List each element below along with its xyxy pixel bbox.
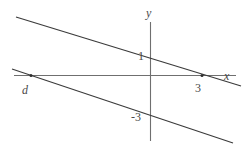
x-axis-label: x bbox=[224, 70, 229, 82]
tick-label-x-3: 3 bbox=[195, 82, 201, 94]
coordinate-plane-figure: y x 1 3 -3 d bbox=[0, 0, 249, 154]
graph-canvas bbox=[0, 0, 249, 154]
tick-label-y-minus-3: -3 bbox=[131, 111, 141, 123]
line-label-d: d bbox=[22, 84, 28, 96]
intersection-point-3 bbox=[201, 74, 204, 77]
y-axis-label: y bbox=[146, 7, 151, 19]
intersection-point-d bbox=[30, 74, 33, 77]
tick-label-y-1: 1 bbox=[138, 50, 144, 62]
